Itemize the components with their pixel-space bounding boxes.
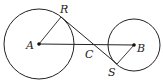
label-s: S: [108, 66, 116, 79]
label-a: A: [25, 39, 34, 52]
point-b-dot: [132, 43, 136, 47]
label-b: B: [136, 42, 145, 55]
label-c: C: [85, 48, 94, 61]
point-a-dot: [37, 42, 41, 46]
label-r: R: [59, 3, 68, 16]
radius-bs: [117, 45, 134, 64]
geometry-diagram: A B C R S: [0, 0, 163, 84]
segment-ab: [39, 44, 134, 45]
radius-ar: [39, 17, 61, 44]
